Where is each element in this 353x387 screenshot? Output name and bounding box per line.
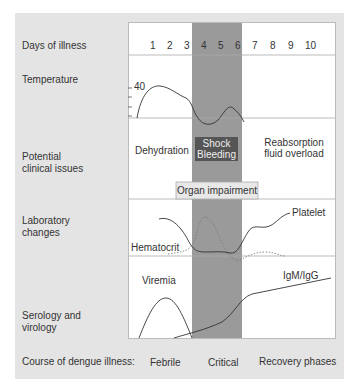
- day-label: 6: [235, 40, 241, 51]
- viremia-curve: [139, 298, 192, 338]
- igm-igg-label: IgM/IgG: [283, 270, 319, 281]
- critical-band: [192, 23, 242, 338]
- day-label: 5: [218, 40, 224, 51]
- viremia-label: Viremia: [142, 275, 176, 286]
- fluid-overload-label: fluid overload: [264, 148, 323, 159]
- phase-recovery: Recovery phases: [259, 356, 336, 367]
- platelet-label: Platelet: [292, 207, 326, 218]
- bleeding-label: Bleeding: [197, 149, 236, 160]
- organ-impairment-label: Organ impairment: [177, 185, 257, 196]
- day-label: 4: [201, 40, 207, 51]
- shock-label: Shock: [203, 138, 232, 149]
- phase-febrile: Febrile: [150, 357, 181, 368]
- day-label: 3: [184, 40, 190, 51]
- day-label: 10: [305, 40, 317, 51]
- hematocrit-label: Hematocrit: [131, 242, 180, 253]
- day-label: 7: [252, 40, 258, 51]
- dehydration-label: Dehydration: [135, 145, 189, 156]
- phase-critical: Critical: [208, 357, 239, 368]
- day-label: 2: [167, 40, 173, 51]
- day-label: 8: [270, 40, 276, 51]
- day-label: 1: [150, 40, 156, 51]
- temperature-40-label: 40: [134, 81, 146, 92]
- day-label: 9: [288, 40, 294, 51]
- diagram-graphics: 1 2 3 4 5 6 7 8 9 10 40 Dehydration Shoc…: [0, 0, 353, 387]
- reabsorption-label: Reabsorption: [264, 137, 323, 148]
- temperature-axis-ticks: [128, 88, 132, 116]
